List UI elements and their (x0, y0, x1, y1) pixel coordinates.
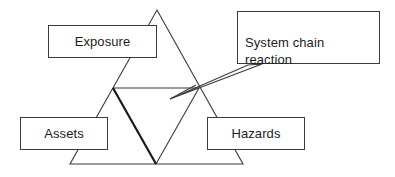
node-hazards[interactable]: Hazards (207, 117, 305, 150)
diagram-canvas: Exposure Assets Hazards System chain rea… (0, 0, 395, 177)
node-hazards-label: Hazards (231, 126, 280, 141)
inner-triangle-left-edge-bold (113, 88, 156, 164)
node-assets[interactable]: Assets (20, 117, 108, 150)
node-assets-label: Assets (44, 126, 84, 141)
node-exposure-label: Exposure (75, 34, 131, 49)
inner-triangle-right-edge (156, 88, 199, 164)
callout-pointer-overshoot (170, 85, 196, 99)
node-exposure[interactable]: Exposure (48, 25, 157, 58)
callout-label: System chain reaction (245, 35, 324, 67)
callout-pointer (170, 64, 262, 99)
callout-system-chain-reaction[interactable]: System chain reaction (237, 11, 380, 64)
